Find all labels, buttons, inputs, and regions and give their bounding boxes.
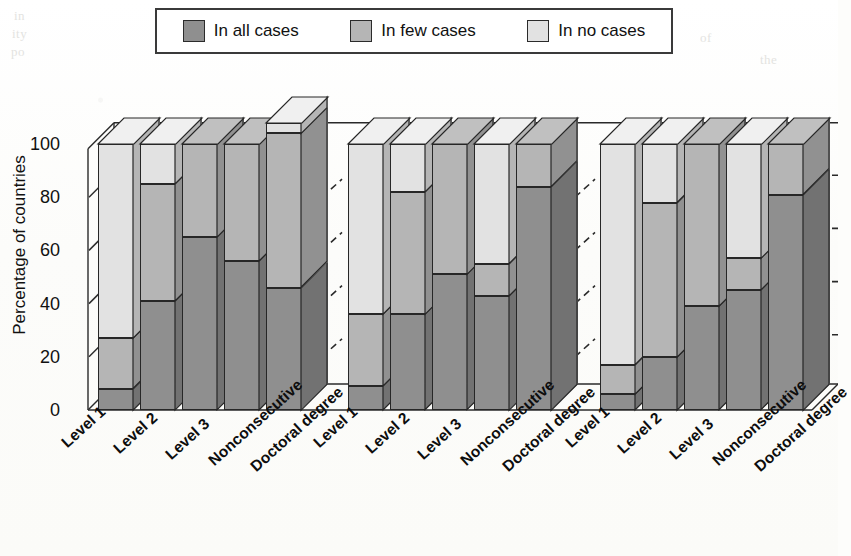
bar-segment bbox=[642, 203, 678, 357]
bar-segment bbox=[516, 144, 552, 187]
bar-segment bbox=[98, 144, 134, 338]
bleed-text: ity bbox=[12, 26, 27, 42]
bleed-text: of bbox=[700, 30, 712, 46]
legend-label-in-all-cases: In all cases bbox=[214, 21, 299, 41]
bar-segment-side bbox=[551, 161, 578, 410]
bar-segment bbox=[140, 184, 176, 301]
legend-entry-in-few-cases: In few cases bbox=[350, 20, 476, 42]
chart-plot-area: Percentage of countries 100806040200 bbox=[0, 60, 838, 440]
bar-segment bbox=[642, 144, 678, 203]
bar-segment bbox=[224, 144, 260, 261]
bar-segment bbox=[182, 237, 218, 410]
bar-segment bbox=[474, 264, 510, 296]
legend-swatch-in-all-cases bbox=[183, 20, 205, 42]
bar-top-face bbox=[768, 117, 832, 145]
bar-segment bbox=[390, 192, 426, 314]
bar-segment bbox=[474, 144, 510, 264]
bar-segment bbox=[266, 133, 302, 287]
bar-segment bbox=[432, 274, 468, 410]
bar-top-face bbox=[516, 117, 580, 145]
bar-segment bbox=[726, 144, 762, 258]
bar-segment bbox=[390, 314, 426, 410]
bar-segment bbox=[726, 290, 762, 410]
chart-legend: In all cases In few cases In no cases bbox=[155, 8, 673, 54]
bar-segment bbox=[390, 144, 426, 192]
bar-segment bbox=[182, 144, 218, 237]
x-axis-labels: Level 1Level 2Level 3NonconsecutiveDocto… bbox=[0, 432, 838, 556]
legend-swatch-in-few-cases bbox=[350, 20, 372, 42]
legend-label-in-few-cases: In few cases bbox=[381, 21, 476, 41]
bar-segment bbox=[98, 389, 134, 410]
bar-segment bbox=[684, 306, 720, 410]
bar-top-face bbox=[266, 96, 330, 124]
bar-segment-side bbox=[301, 107, 328, 287]
bar-segment bbox=[432, 144, 468, 274]
bar-segment bbox=[266, 123, 302, 134]
bar-segment-side bbox=[803, 169, 830, 410]
bar-segment bbox=[726, 258, 762, 290]
legend-entry-in-all-cases: In all cases bbox=[183, 20, 299, 42]
legend-label-in-no-cases: In no cases bbox=[558, 21, 645, 41]
legend-entry-in-no-cases: In no cases bbox=[527, 20, 645, 42]
bleed-text: po bbox=[11, 44, 25, 60]
bar-segment bbox=[600, 365, 636, 394]
bar-segment bbox=[642, 357, 678, 410]
bar-segment bbox=[348, 144, 384, 314]
bar-segment bbox=[348, 314, 384, 386]
bar-segment bbox=[768, 144, 804, 195]
bar-segment bbox=[474, 296, 510, 410]
bar-segment bbox=[140, 144, 176, 184]
bar-segment bbox=[98, 338, 134, 389]
bar-segment bbox=[224, 261, 260, 410]
bar-segment bbox=[684, 144, 720, 306]
bar-segment bbox=[140, 301, 176, 410]
bleed-text: in bbox=[14, 8, 25, 24]
bar-segment bbox=[600, 144, 636, 365]
legend-swatch-in-no-cases bbox=[527, 20, 549, 42]
